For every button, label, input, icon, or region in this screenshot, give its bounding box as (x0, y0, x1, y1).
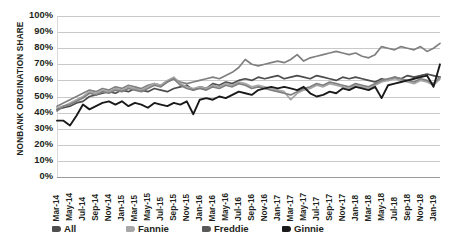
legend-label: Ginnie (294, 224, 324, 234)
x-tick-label: May-14 (66, 193, 74, 221)
y-tick-label: 80% (0, 42, 53, 51)
x-tick-label: Jan-18 (352, 195, 360, 221)
legend-item-fannie[interactable]: Fannie (126, 222, 169, 236)
x-tick-label: Mar-17 (287, 195, 295, 221)
x-tick-label: Sep-15 (170, 194, 178, 221)
x-tick-label: Nov-16 (261, 194, 269, 221)
x-tick-label: Jan-15 (118, 195, 126, 221)
series-lines (57, 16, 440, 177)
y-tick-label: 10% (0, 155, 53, 164)
legend-swatch-icon (52, 226, 61, 232)
x-tick-label: May-16 (222, 193, 230, 221)
x-tick-label: Jul-17 (313, 197, 321, 221)
x-tick-label: Nov-18 (417, 194, 425, 221)
x-tick-label: Mar-15 (131, 195, 139, 221)
legend-item-freddie[interactable]: Freddie (202, 222, 249, 236)
y-tick-label: 100% (0, 10, 53, 19)
x-tick-label: Jan-17 (274, 195, 282, 221)
legend-label: All (64, 224, 76, 234)
y-tick-label: 60% (0, 74, 53, 83)
legend-swatch-icon (202, 226, 211, 232)
x-tick-label: Sep-18 (404, 194, 412, 221)
x-tick-label: Nov-15 (183, 194, 191, 221)
x-tick-label: Sep-14 (92, 194, 100, 221)
x-tick-label: Sep-17 (326, 194, 334, 221)
legend-label: Fannie (138, 224, 169, 234)
y-tick-label: 20% (0, 139, 53, 148)
chart-legend: AllFannieFreddieGinnie (40, 222, 340, 238)
x-tick-label: Jul-18 (391, 197, 399, 221)
x-tick-label: Jan-19 (430, 195, 438, 221)
x-tick-label: May-15 (144, 193, 152, 221)
series-line-ginnie (57, 64, 440, 125)
y-tick-label: 30% (0, 123, 53, 132)
x-tick-label: Mar-16 (209, 195, 217, 221)
legend-label: Freddie (214, 224, 249, 234)
plot-area (57, 16, 440, 177)
legend-swatch-icon (126, 226, 135, 232)
gridline (57, 177, 440, 178)
y-tick-label: 50% (0, 91, 53, 100)
x-tick-label: Jan-16 (196, 195, 204, 221)
y-tick-label: 90% (0, 26, 53, 35)
y-tick-label: 70% (0, 58, 53, 67)
x-tick-label: Nov-14 (105, 194, 113, 221)
x-tick-label: Jul-16 (235, 197, 243, 221)
y-tick-label: 40% (0, 107, 53, 116)
x-tick-label: Mar-14 (53, 195, 61, 221)
x-tick-label: Nov-17 (339, 194, 347, 221)
x-tick-label: Sep-16 (248, 194, 256, 221)
x-tick-label: May-17 (300, 193, 308, 221)
y-axis-tick-labels: 100%90%80%70%60%50%40%30%20%10%0% (0, 16, 53, 177)
legend-swatch-icon (282, 226, 291, 232)
legend-item-all[interactable]: All (52, 222, 76, 236)
x-tick-label: Jul-15 (157, 197, 165, 221)
x-tick-label: May-18 (378, 193, 386, 221)
x-axis-tick-labels: Mar-14May-14Jul-14Sep-14Nov-14Jan-15Mar-… (57, 179, 440, 221)
x-tick-label: Jul-14 (79, 197, 87, 221)
legend-item-ginnie[interactable]: Ginnie (282, 222, 324, 236)
x-tick-label: Mar-18 (365, 195, 373, 221)
y-tick-label: 0% (0, 171, 53, 180)
chart-container: NONBANK ORIGINATION SHARE 100%90%80%70%6… (0, 0, 453, 246)
